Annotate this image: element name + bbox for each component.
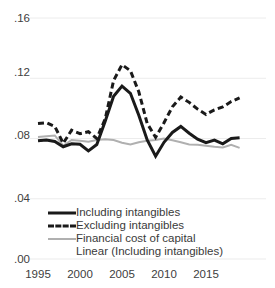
x-axis-tick-2015: 2015 xyxy=(189,268,223,280)
chart-container: .16 .12 .08 .04 .00 1995 2000 2005 2010 … xyxy=(0,0,275,288)
legend-label-linear-including-intangibles: Linear (Including intangibles) xyxy=(76,245,223,258)
legend-swatch-dashed-icon xyxy=(46,220,76,232)
y-axis-tick-1: .12 xyxy=(4,66,30,78)
legend-item-financial-cost-of-capital: Financial cost of capital xyxy=(46,232,246,245)
legend-item-linear-including-intangibles: Linear (Including intangibles) xyxy=(46,245,246,258)
legend-label-excluding-intangibles: Excluding intangibles xyxy=(76,219,184,232)
legend-item-excluding-intangibles: Excluding intangibles xyxy=(46,219,246,232)
x-axis-tick-1995: 1995 xyxy=(21,268,55,280)
series-line-excluding-intangibles xyxy=(38,65,240,144)
legend-swatch-solid-icon xyxy=(46,207,76,219)
y-axis-tick-2: .08 xyxy=(4,129,30,141)
legend-label-financial-cost-of-capital: Financial cost of capital xyxy=(76,232,196,245)
chart-legend: Including intangibles Excluding intangib… xyxy=(46,206,246,258)
legend-item-including-intangibles: Including intangibles xyxy=(46,206,246,219)
y-axis-tick-4: .00 xyxy=(4,253,30,265)
legend-swatch-gray-icon xyxy=(46,233,76,245)
y-axis-tick-3: .04 xyxy=(4,192,30,204)
y-axis-tick-0: .16 xyxy=(4,12,30,24)
legend-label-including-intangibles: Including intangibles xyxy=(76,206,180,219)
x-axis-tick-2005: 2005 xyxy=(105,268,139,280)
x-axis-tick-2010: 2010 xyxy=(147,268,181,280)
x-axis-tick-2000: 2000 xyxy=(63,268,97,280)
